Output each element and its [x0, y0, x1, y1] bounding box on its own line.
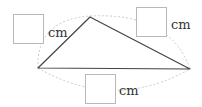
unit-label-left: cm — [48, 26, 68, 39]
answer-box-right-side[interactable] — [136, 7, 167, 37]
triangle-diagram: cm cm cm — [0, 0, 202, 107]
answer-box-bottom-side[interactable] — [85, 74, 116, 104]
unit-label-right: cm — [171, 18, 191, 31]
unit-label-bottom: cm — [119, 84, 139, 97]
answer-box-left-side[interactable] — [13, 14, 44, 44]
